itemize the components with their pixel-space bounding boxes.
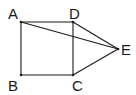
point-a bbox=[20, 21, 23, 24]
segments-to-e bbox=[21, 22, 118, 75]
label-a: A bbox=[8, 5, 18, 22]
vertices bbox=[20, 21, 120, 77]
segment-de bbox=[73, 22, 118, 49]
segment-ce bbox=[73, 49, 118, 75]
point-c bbox=[72, 74, 75, 77]
point-e bbox=[117, 48, 120, 51]
labels: A D E B C bbox=[8, 5, 131, 94]
square-abcd bbox=[21, 22, 73, 75]
geometry-diagram: A D E B C bbox=[0, 0, 136, 95]
label-b: B bbox=[8, 77, 18, 94]
segment-ae bbox=[21, 22, 118, 49]
point-b bbox=[20, 74, 23, 77]
label-c: C bbox=[72, 77, 83, 94]
label-e: E bbox=[121, 41, 131, 58]
label-d: D bbox=[69, 5, 80, 22]
